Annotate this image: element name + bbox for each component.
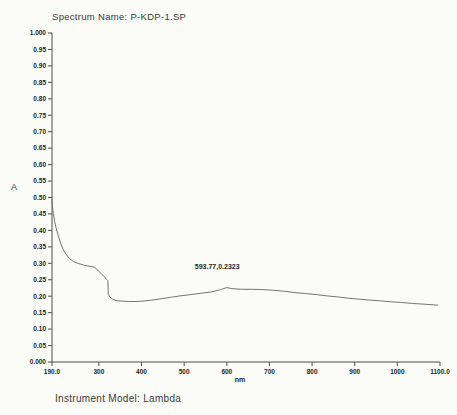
x-tick-label: 400 (136, 368, 147, 375)
y-tick-label: 0.20 (33, 293, 46, 300)
x-tick-label: 700 (264, 368, 275, 375)
y-tick-label: 0.45 (33, 210, 46, 217)
spectrum-plot: 1.0000.950.900.850.800.750.700.650.600.5… (0, 0, 457, 415)
y-tick-label: 0.85 (33, 79, 46, 86)
y-tick-label: 0.30 (33, 260, 46, 267)
x-tick-label: 900 (349, 368, 360, 375)
x-tick-label: 600 (221, 368, 232, 375)
x-tick-label: 1000 (390, 368, 405, 375)
x-tick-label: 500 (179, 368, 190, 375)
x-tick-label: 1100.0 (430, 368, 450, 375)
y-tick-label: 0.80 (33, 95, 46, 102)
y-tick-label: 0.10 (33, 325, 46, 332)
x-tick-label: 300 (93, 368, 104, 375)
y-tick-label: 0.000 (30, 358, 47, 365)
spectrum-curve (52, 200, 438, 306)
x-axis-unit-label: nm (235, 376, 246, 383)
instrument-model-label: Instrument Model: Lambda (55, 393, 181, 404)
y-tick-label: 0.90 (33, 62, 46, 69)
y-tick-label: 0.50 (33, 194, 46, 201)
y-tick-label: 0.95 (33, 46, 46, 53)
peak-annotation: 593.77,0.2323 (195, 263, 240, 271)
x-tick-label: 800 (307, 368, 318, 375)
y-tick-label: 0.35 (33, 243, 46, 250)
y-tick-label: 0.70 (33, 128, 46, 135)
y-tick-label: 0.25 (33, 276, 46, 283)
spectrum-report-page: Spectrum Name: P-KDP-1.SP 1.0000.950.900… (0, 0, 457, 415)
y-tick-label: 0.40 (33, 227, 46, 234)
y-tick-label: 0.60 (33, 161, 46, 168)
y-tick-label: 0.05 (33, 342, 46, 349)
y-tick-label: 0.75 (33, 112, 46, 119)
y-tick-label: 0.15 (33, 309, 46, 316)
y-tick-label: 0.55 (33, 177, 46, 184)
y-axis-unit-label: A (11, 182, 17, 192)
y-tick-label: 1.000 (30, 29, 47, 36)
y-tick-label: 0.65 (33, 144, 46, 151)
x-tick-label: 190.0 (44, 368, 61, 375)
